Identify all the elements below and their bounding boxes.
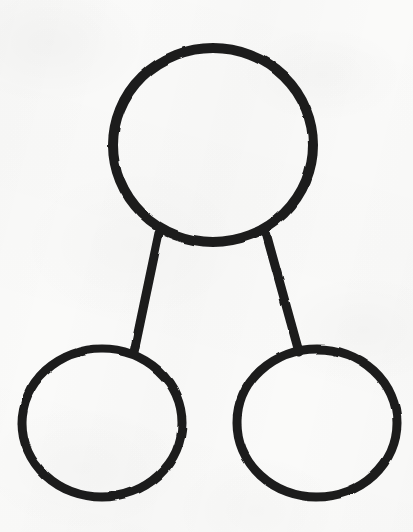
node-circle-bottom-left xyxy=(22,349,182,497)
edge-top-to-bottom-right xyxy=(266,233,299,352)
edge-top-to-bottom-left xyxy=(134,233,159,352)
diagram-canvas xyxy=(0,0,413,532)
node-link-diagram xyxy=(0,0,413,532)
node-circle-top xyxy=(113,48,313,242)
node-circle-bottom-right xyxy=(237,349,397,497)
